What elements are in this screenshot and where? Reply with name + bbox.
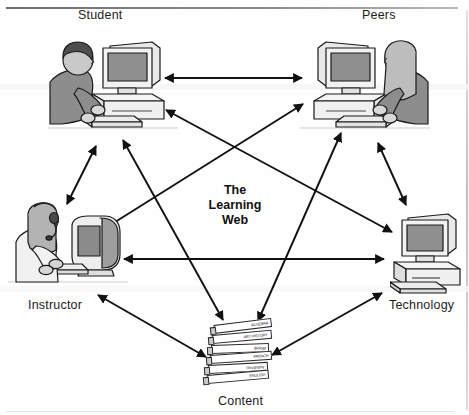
arrow-student-instructor xyxy=(67,146,96,204)
arrow-student-content xyxy=(123,140,223,320)
node-technology[interactable]: Technology xyxy=(390,212,466,296)
node-label-peers: Peers xyxy=(362,8,396,22)
desktop-computer-icon xyxy=(390,212,466,296)
node-content[interactable]: ALGEBRA ART HISTORY Biology FRENCH xyxy=(200,322,286,414)
stack-of-books-icon: ALGEBRA ART HISTORY Biology FRENCH xyxy=(206,325,276,387)
center-caption-line-1: The xyxy=(188,183,282,198)
arrow-peers-technology xyxy=(378,143,406,205)
node-peers[interactable]: Peers xyxy=(300,36,430,140)
node-label-student: Student xyxy=(78,8,123,22)
center-caption-line-2: Learning xyxy=(188,198,282,213)
node-label-content: Content xyxy=(218,394,263,408)
center-caption: The Learning Web xyxy=(188,183,282,228)
person-with-headset-at-imac-icon xyxy=(8,198,128,294)
node-instructor[interactable]: Instructor xyxy=(8,198,128,294)
node-label-instructor: Instructor xyxy=(28,298,82,312)
node-student[interactable]: Student xyxy=(48,36,178,140)
arrow-technology-content xyxy=(272,293,382,355)
person-at-desktop-computer-icon xyxy=(300,36,430,140)
learning-web-diagram: Student xyxy=(0,0,469,415)
center-caption-line-3: Web xyxy=(188,213,282,228)
person-at-desktop-computer-icon xyxy=(48,36,178,140)
node-label-technology: Technology xyxy=(389,298,454,312)
arrow-instructor-content xyxy=(98,295,206,357)
